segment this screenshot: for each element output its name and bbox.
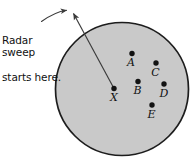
point-label-E: E [147, 108, 155, 121]
annotation-caption-line-1: Radar sweep [2, 34, 66, 59]
point-label-D: D [160, 87, 169, 100]
point-label-A: A [127, 56, 135, 69]
radar-sweep-figure: Radar sweep starts here. X A B C D E [0, 0, 191, 167]
point-label-B: B [133, 84, 141, 97]
annotation-leader-line [42, 10, 67, 21]
point-label-X: X [110, 91, 118, 104]
annotation-caption: Radar sweep starts here. [2, 21, 66, 96]
point-label-C: C [151, 66, 159, 79]
annotation-caption-line-2: starts here. [2, 71, 66, 84]
